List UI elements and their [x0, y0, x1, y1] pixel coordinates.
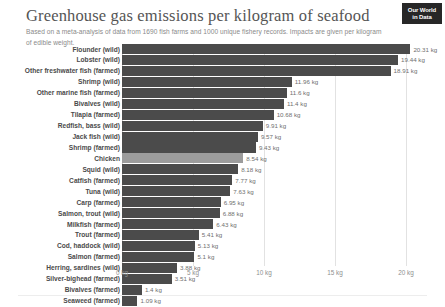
bar-value-label: 1.4 kg	[145, 286, 162, 293]
bar-row[interactable]: Squid (wild)8.18 kg	[0, 164, 445, 174]
bar-value-label: 9.91 kg	[266, 122, 286, 129]
bar[interactable]	[122, 296, 137, 306]
our-world-in-data-logo[interactable]: Our World in Data	[402, 3, 442, 24]
bar-row[interactable]: Lobster (wild)19.44 kg	[0, 55, 445, 65]
bar-value-label: 6.88 kg	[223, 210, 243, 217]
bar[interactable]	[122, 197, 221, 207]
bar-row[interactable]: Tuna (wild)7.63 kg	[0, 186, 445, 196]
bar-value-label: 18.91 kg	[394, 67, 418, 74]
bar[interactable]	[122, 110, 274, 120]
bar-category-label: Tuna (wild)	[0, 188, 120, 195]
bar-wrapper: 20.31 kg	[122, 44, 437, 54]
bar[interactable]	[122, 77, 292, 87]
bar-row[interactable]: Catfish (farmed)7.77 kg	[0, 175, 445, 185]
bar-row[interactable]: Flounder (wild)20.31 kg	[0, 44, 445, 54]
bar[interactable]	[122, 153, 243, 163]
bar-value-label: 19.44 kg	[401, 56, 425, 63]
footer-divider	[18, 295, 427, 296]
bar-value-label: 6.95 kg	[224, 199, 244, 206]
bar-row[interactable]: Other freshwater fish (farmed)18.91 kg	[0, 66, 445, 76]
bar-value-label: 11.96 kg	[295, 78, 318, 85]
bar-row[interactable]: Milkfish (farmed)6.43 kg	[0, 219, 445, 229]
bar-row[interactable]: Jack fish (wild)9.57 kg	[0, 132, 445, 142]
bar[interactable]	[122, 132, 258, 142]
bar[interactable]	[122, 219, 213, 229]
bar[interactable]	[122, 142, 256, 152]
bar-wrapper: 7.63 kg	[122, 186, 254, 196]
bar-wrapper: 6.88 kg	[122, 208, 243, 218]
bar-category-label: Salmon, trout (wild)	[0, 210, 120, 217]
bar-category-label: Milkfish (farmed)	[0, 221, 120, 228]
bar-category-label: Salmon (farmed)	[0, 253, 120, 260]
bar-series: Flounder (wild)20.31 kgLobster (wild)19.…	[0, 44, 445, 307]
bar-value-label: 7.63 kg	[233, 188, 253, 195]
bar-wrapper: 1.4 kg	[122, 285, 162, 295]
bar-row[interactable]: Shrimp (farmed)9.43 kg	[0, 142, 445, 152]
bar-category-label: Flounder (wild)	[0, 46, 120, 53]
bar[interactable]	[122, 44, 410, 54]
bar-category-label: Jack fish (wild)	[0, 133, 120, 140]
bar-value-label: 6.43 kg	[216, 221, 236, 228]
bar-category-label: Catfish (farmed)	[0, 177, 120, 184]
bar-row[interactable]: Carp (farmed)6.95 kg	[0, 197, 445, 207]
bar[interactable]	[122, 186, 230, 196]
bar[interactable]	[122, 99, 284, 109]
chart-header: Greenhouse gas emissions per kilogram of…	[0, 0, 445, 48]
bar-value-label: 9.43 kg	[259, 144, 279, 151]
bar[interactable]	[122, 285, 142, 295]
bar[interactable]	[122, 164, 238, 174]
bar-wrapper: 9.57 kg	[122, 132, 281, 142]
bar-category-label: Redfish, bass (wild)	[0, 122, 120, 129]
bar-value-label: 5.41 kg	[202, 231, 222, 238]
bar[interactable]	[122, 208, 220, 218]
bar-row[interactable]: Tilapia (farmed)10.68 kg	[0, 110, 445, 120]
bar-category-label: Shrimp (wild)	[0, 78, 120, 85]
bar-category-label: Seaweed (farmed)	[0, 297, 120, 304]
bar-row[interactable]: Seaweed (farmed)1.09 kg	[0, 296, 445, 306]
bar-row[interactable]: Other marine fish (farmed)11.6 kg	[0, 88, 445, 98]
bar-row[interactable]: Salmon (farmed)5.1 kg	[0, 252, 445, 262]
bar-value-label: 11.6 kg	[290, 89, 310, 96]
bar-wrapper: 1.09 kg	[122, 296, 161, 306]
bar-wrapper: 5.1 kg	[122, 252, 214, 262]
bar-category-label: Other freshwater fish (farmed)	[0, 67, 120, 74]
x-axis: 0 kg5 kg10 kg15 kg20 kg	[0, 269, 445, 283]
bar[interactable]	[122, 88, 287, 98]
bar-row[interactable]: Cod, haddock (wild)5.13 kg	[0, 241, 445, 251]
bar[interactable]	[122, 241, 195, 251]
bar[interactable]	[122, 66, 391, 76]
bar-category-label: Tilapia (farmed)	[0, 111, 120, 118]
bar-value-label: 5.13 kg	[198, 242, 218, 249]
bar-row[interactable]: Chicken8.54 kg	[0, 153, 445, 163]
bar-wrapper: 6.95 kg	[122, 197, 244, 207]
bar[interactable]	[122, 121, 263, 131]
bar-wrapper: 11.96 kg	[122, 77, 318, 87]
bar-row[interactable]: Bivalves (farmed)1.4 kg	[0, 285, 445, 295]
bar[interactable]	[122, 252, 194, 262]
bar-category-label: Squid (wild)	[0, 166, 120, 173]
bar-row[interactable]: Redfish, bass (wild)9.91 kg	[0, 121, 445, 131]
bar-category-label: Shrimp (farmed)	[0, 144, 120, 151]
bar-value-label: 11.4 kg	[287, 100, 307, 107]
plot-area: Flounder (wild)20.31 kgLobster (wild)19.…	[0, 44, 445, 276]
bar[interactable]	[122, 175, 232, 185]
bar-wrapper: 5.41 kg	[122, 230, 222, 240]
bar-category-label: Trout (farmed)	[0, 231, 120, 238]
bar-row[interactable]: Bivalves (wild)11.4 kg	[0, 99, 445, 109]
bar-wrapper: 8.18 kg	[122, 164, 262, 174]
bar-wrapper: 7.77 kg	[122, 175, 256, 185]
bar-value-label: 1.09 kg	[140, 297, 160, 304]
bar-row[interactable]: Shrimp (wild)11.96 kg	[0, 77, 445, 87]
bar-wrapper: 11.6 kg	[122, 88, 310, 98]
bar-row[interactable]: Salmon, trout (wild)6.88 kg	[0, 208, 445, 218]
bar-category-label: Lobster (wild)	[0, 56, 120, 63]
bar-wrapper: 18.91 kg	[122, 66, 417, 76]
bar-category-label: Cod, haddock (wild)	[0, 242, 120, 249]
bar[interactable]	[122, 230, 199, 240]
bar[interactable]	[122, 55, 398, 65]
bar-value-label: 7.77 kg	[235, 177, 255, 184]
bar-category-label: Carp (farmed)	[0, 199, 120, 206]
bar-wrapper: 19.44 kg	[122, 55, 425, 65]
bar-row[interactable]: Trout (farmed)5.41 kg	[0, 230, 445, 240]
x-axis-tick-label: 10 kg	[256, 269, 272, 276]
